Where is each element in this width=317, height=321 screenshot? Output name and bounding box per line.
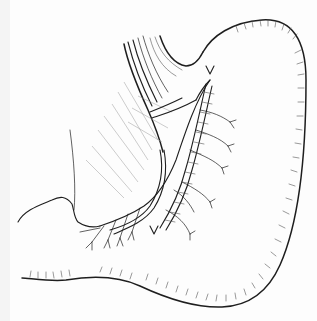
upper-arrowhead-icon	[206, 66, 214, 74]
lower-arrowhead-icon	[150, 226, 158, 234]
illustration-canvas	[0, 0, 317, 321]
stomach-illustration	[0, 0, 317, 321]
greater-curvature-hatching	[30, 20, 304, 301]
esophagus	[124, 36, 203, 152]
